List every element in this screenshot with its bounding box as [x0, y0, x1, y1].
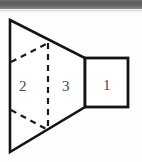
figure-canvas: 2 3 1 — [0, 0, 142, 162]
region-label-2: 2 — [19, 79, 27, 94]
region-label-3: 3 — [62, 79, 70, 94]
region-label-1: 1 — [103, 78, 111, 93]
